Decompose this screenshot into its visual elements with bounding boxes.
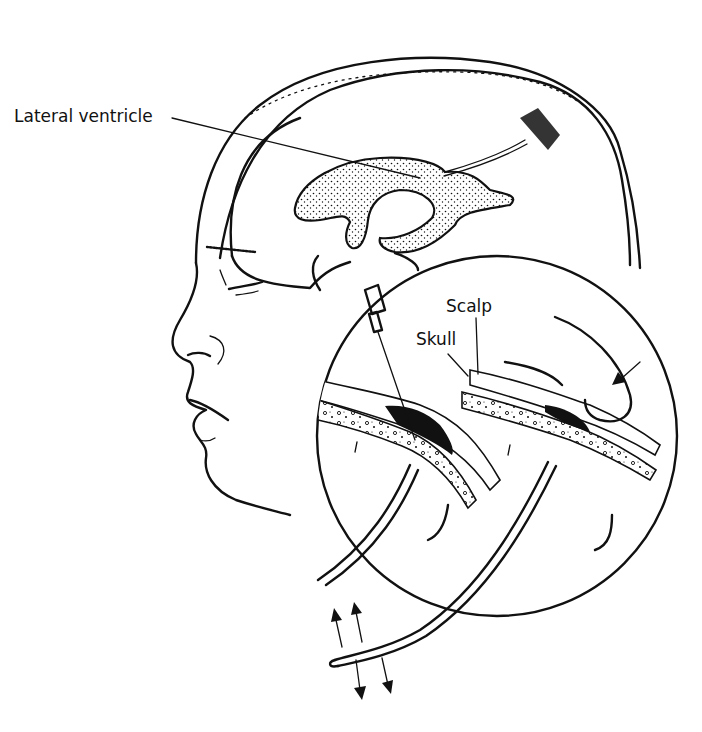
drainage-catheters bbox=[318, 462, 556, 666]
arrow-up-icon bbox=[331, 608, 342, 647]
inset-cross-section bbox=[318, 317, 660, 550]
arrow-down-icon bbox=[354, 660, 366, 700]
label-skull: Skull bbox=[416, 329, 456, 349]
medical-illustration: Lateral ventricle Scalp Skull bbox=[0, 0, 702, 732]
leader-scalp bbox=[476, 318, 478, 374]
arrow-up-icon bbox=[351, 602, 362, 642]
label-lateral-ventricle: Lateral ventricle bbox=[14, 106, 153, 126]
arrow-down-icon bbox=[382, 658, 393, 694]
label-scalp: Scalp bbox=[446, 296, 492, 316]
ventricular-catheter bbox=[444, 108, 560, 176]
leader-skull bbox=[448, 354, 468, 376]
leader-lateral-ventricle bbox=[172, 118, 420, 178]
